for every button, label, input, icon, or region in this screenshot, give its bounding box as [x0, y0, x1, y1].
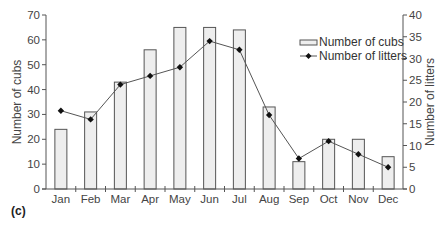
bar-oct [323, 139, 335, 189]
x-tick-label: Jun [200, 193, 219, 205]
x-tick-label: Nov [348, 193, 369, 205]
right-y-tick-label: 20 [409, 96, 422, 108]
left-y-tick-label: 40 [27, 84, 40, 96]
cubs-litters-chart: JanFebMarAprMayJunJulAugSepOctNovDec 010… [0, 0, 442, 229]
x-tick-label: Dec [378, 193, 399, 205]
bar-feb [85, 112, 97, 189]
legend-bar-swatch [300, 40, 317, 45]
bar-apr [144, 50, 156, 189]
left-y-tick-label: 50 [27, 59, 40, 71]
bar-sep [293, 162, 305, 189]
litter-marker-jan [58, 108, 64, 114]
right-y-axis-ticks: 0510152025303540 [403, 9, 422, 195]
left-y-tick-label: 60 [27, 34, 40, 46]
bar-may [174, 27, 186, 189]
left-y-tick-label: 0 [34, 183, 40, 195]
litter-marker-sep [296, 155, 302, 161]
right-y-tick-label: 40 [409, 9, 422, 21]
bar-jun [204, 27, 216, 189]
bar-mar [114, 82, 126, 189]
x-tick-label: Jul [232, 193, 247, 205]
right-y-tick-label: 35 [409, 31, 422, 43]
bar-nov [352, 139, 364, 189]
legend-diamond-marker-icon [306, 53, 312, 59]
legend: Number of cubs Number of litters [300, 35, 407, 63]
left-y-tick-label: 30 [27, 108, 40, 120]
bar-jan [55, 129, 67, 189]
x-tick-label: Apr [141, 193, 159, 205]
right-y-tick-label: 15 [409, 118, 422, 130]
x-tick-label: Oct [320, 193, 339, 205]
legend-item-cubs: Number of cubs [300, 35, 404, 49]
legend-label-litters: Number of litters [319, 49, 407, 63]
x-tick-label: May [169, 193, 191, 205]
x-tick-label: Sep [289, 193, 309, 205]
left-y-tick-label: 20 [27, 133, 40, 145]
right-y-tick-label: 5 [409, 161, 415, 173]
left-y-tick-label: 70 [27, 9, 40, 21]
bar-aug [263, 107, 275, 189]
right-y-tick-label: 10 [409, 140, 422, 152]
x-tick-label: Aug [259, 193, 279, 205]
legend-label-cubs: Number of cubs [319, 35, 404, 49]
left-y-axis-title: Number of cubs [10, 60, 24, 145]
bar-dec [382, 157, 394, 189]
panel-label: (c) [11, 204, 26, 218]
left-y-tick-label: 10 [27, 158, 40, 170]
right-y-tick-label: 0 [409, 183, 415, 195]
x-tick-label: Feb [81, 193, 101, 205]
bar-jul [233, 30, 245, 189]
legend-item-litters: Number of litters [300, 49, 407, 63]
x-tick-label: Jan [52, 193, 71, 205]
right-y-tick-label: 30 [409, 53, 422, 65]
right-y-axis-title: Number of litters [423, 58, 437, 146]
left-y-axis-ticks: 010203040506070 [27, 9, 46, 195]
right-y-tick-label: 25 [409, 74, 422, 86]
x-tick-label: Mar [110, 193, 130, 205]
